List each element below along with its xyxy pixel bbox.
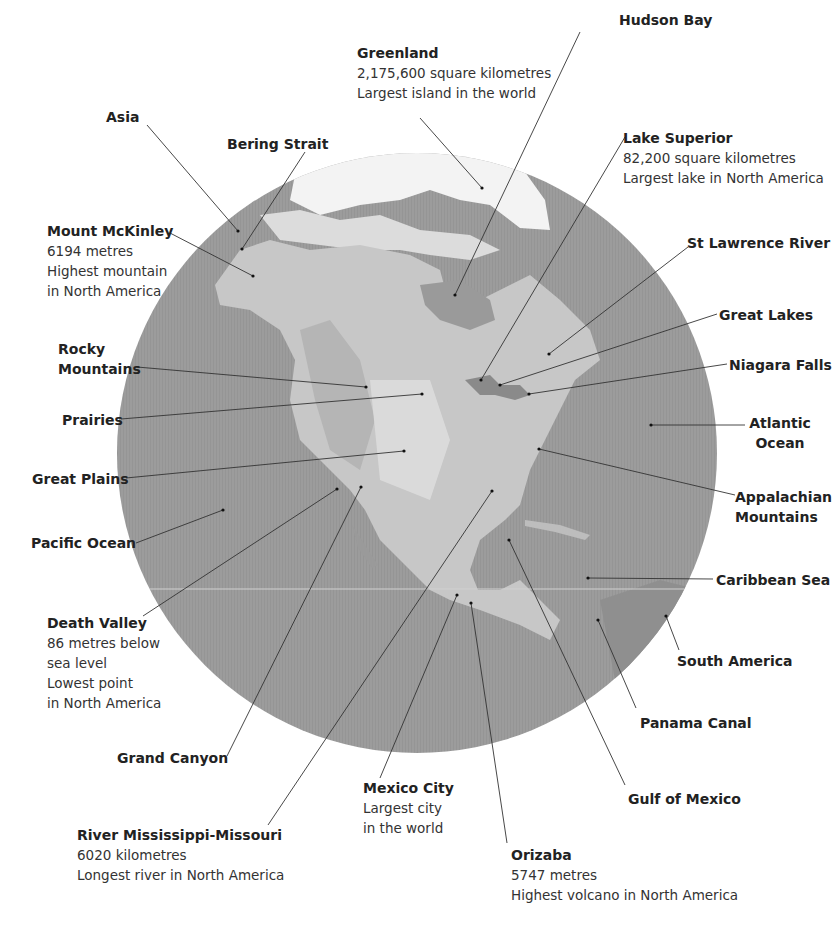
label-pacific-ocean: Pacific Ocean <box>31 533 136 553</box>
label-title: Pacific Ocean <box>31 533 136 553</box>
label-line: in the world <box>363 818 454 838</box>
label-line: 6020 kilometres <box>77 845 284 865</box>
label-line: Longest river in North America <box>77 865 284 885</box>
label-line: Largest lake in North America <box>623 168 824 188</box>
label-title: Bering Strait <box>227 134 328 154</box>
label-atlantic-ocean: Atlantic Ocean <box>745 413 815 453</box>
label-lake-superior: Lake Superior 82,200 square kilometres L… <box>623 128 824 188</box>
label-title: Niagara Falls <box>729 355 832 375</box>
label-orizaba: Orizaba 5747 metres Highest volcano in N… <box>511 845 738 905</box>
label-gulf-of-mexico: Gulf of Mexico <box>628 789 741 809</box>
label-appalachian-mountains: Appalachian Mountains <box>735 487 831 527</box>
label-great-plains: Great Plains <box>32 469 129 489</box>
label-title: Panama Canal <box>640 713 752 733</box>
label-title: Lake Superior <box>623 128 824 148</box>
label-title: Orizaba <box>511 845 738 865</box>
label-caribbean-sea: Caribbean Sea <box>716 570 830 590</box>
label-rocky-mountains: Rocky Mountains <box>58 339 138 379</box>
label-title: Mount McKinley <box>47 221 173 241</box>
label-title: Greenland <box>357 43 551 63</box>
label-panama-canal: Panama Canal <box>640 713 752 733</box>
label-title: Great Plains <box>32 469 129 489</box>
label-title: Gulf of Mexico <box>628 789 741 809</box>
label-title: Great Lakes <box>719 305 813 325</box>
label-line: sea level <box>47 653 161 673</box>
label-line: Largest city <box>363 798 454 818</box>
label-line: 5747 metres <box>511 865 738 885</box>
label-south-america: South America <box>677 651 793 671</box>
label-greenland: Greenland 2,175,600 square kilometres La… <box>357 43 551 103</box>
label-prairies: Prairies <box>62 410 123 430</box>
label-line: Highest mountain <box>47 261 173 281</box>
label-river-mississippi-missouri: River Mississippi-Missouri 6020 kilometr… <box>77 825 284 885</box>
label-title: South America <box>677 651 793 671</box>
label-title: Prairies <box>62 410 123 430</box>
label-asia: Asia <box>106 107 139 127</box>
label-line: 86 metres below <box>47 633 161 653</box>
label-line: in North America <box>47 693 161 713</box>
label-niagara-falls: Niagara Falls <box>729 355 832 375</box>
label-bering-strait: Bering Strait <box>227 134 328 154</box>
label-line: Lowest point <box>47 673 161 693</box>
label-line: 2,175,600 square kilometres <box>357 63 551 83</box>
label-title: Asia <box>106 107 139 127</box>
label-mexico-city: Mexico City Largest city in the world <box>363 778 454 838</box>
label-title: Atlantic Ocean <box>745 413 815 453</box>
label-title: Grand Canyon <box>117 748 228 768</box>
label-st-lawrence-river: St Lawrence River <box>687 233 830 253</box>
label-title: Death Valley <box>47 613 161 633</box>
label-great-lakes: Great Lakes <box>719 305 813 325</box>
label-mount-mckinley: Mount McKinley 6194 metres Highest mount… <box>47 221 173 301</box>
label-death-valley: Death Valley 86 metres below sea level L… <box>47 613 161 713</box>
label-line: 82,200 square kilometres <box>623 148 824 168</box>
label-title: Caribbean Sea <box>716 570 830 590</box>
label-title: Hudson Bay <box>619 10 712 30</box>
label-line: Highest volcano in North America <box>511 885 738 905</box>
label-hudson-bay: Hudson Bay <box>619 10 712 30</box>
label-grand-canyon: Grand Canyon <box>117 748 228 768</box>
label-title: Mexico City <box>363 778 454 798</box>
label-line: 6194 metres <box>47 241 173 261</box>
label-title: St Lawrence River <box>687 233 830 253</box>
label-title: Appalachian Mountains <box>735 487 831 527</box>
label-line: in North America <box>47 281 173 301</box>
label-title: Rocky Mountains <box>58 339 138 379</box>
label-title: River Mississippi-Missouri <box>77 825 284 845</box>
label-line: Largest island in the world <box>357 83 551 103</box>
globe <box>117 145 720 753</box>
